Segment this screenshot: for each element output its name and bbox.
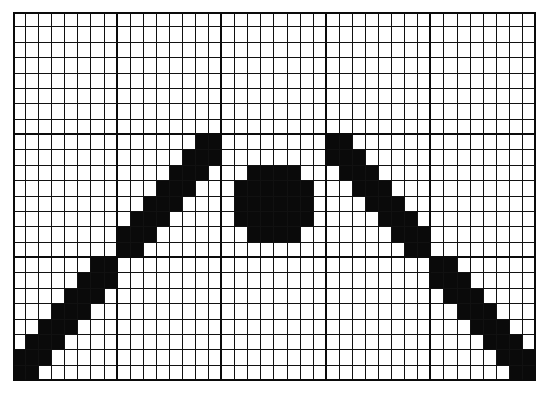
empty-pixel xyxy=(274,289,287,304)
filled-pixel xyxy=(510,335,523,350)
empty-pixel xyxy=(366,289,379,304)
empty-pixel xyxy=(39,366,52,381)
empty-pixel xyxy=(510,150,523,165)
empty-pixel xyxy=(510,166,523,181)
empty-pixel xyxy=(78,58,91,73)
empty-pixel xyxy=(431,120,444,135)
empty-pixel xyxy=(431,58,444,73)
filled-pixel xyxy=(274,212,287,227)
empty-pixel xyxy=(288,12,301,27)
empty-pixel xyxy=(196,12,209,27)
empty-pixel xyxy=(78,89,91,104)
empty-pixel xyxy=(301,320,314,335)
filled-pixel xyxy=(52,335,65,350)
filled-pixel xyxy=(78,273,91,288)
empty-pixel xyxy=(235,12,248,27)
empty-pixel xyxy=(105,366,118,381)
empty-pixel xyxy=(405,197,418,212)
empty-pixel xyxy=(52,89,65,104)
empty-pixel xyxy=(392,350,405,365)
empty-pixel xyxy=(118,366,131,381)
empty-pixel xyxy=(13,43,26,58)
empty-pixel xyxy=(248,335,261,350)
filled-pixel xyxy=(379,212,392,227)
empty-pixel xyxy=(222,227,235,242)
empty-pixel xyxy=(39,74,52,89)
filled-pixel xyxy=(13,350,26,365)
empty-pixel xyxy=(144,366,157,381)
empty-pixel xyxy=(301,366,314,381)
empty-pixel xyxy=(379,120,392,135)
empty-pixel xyxy=(183,104,196,119)
empty-pixel xyxy=(510,43,523,58)
empty-pixel xyxy=(261,58,274,73)
empty-pixel xyxy=(366,227,379,242)
empty-pixel xyxy=(78,212,91,227)
empty-pixel xyxy=(392,104,405,119)
empty-pixel xyxy=(288,89,301,104)
empty-pixel xyxy=(157,227,170,242)
empty-pixel xyxy=(458,166,471,181)
empty-pixel xyxy=(91,181,104,196)
empty-pixel xyxy=(353,212,366,227)
empty-pixel xyxy=(235,135,248,150)
filled-pixel xyxy=(340,166,353,181)
empty-pixel xyxy=(13,243,26,258)
filled-pixel xyxy=(274,197,287,212)
empty-pixel xyxy=(274,320,287,335)
empty-pixel xyxy=(13,135,26,150)
empty-pixel xyxy=(209,197,222,212)
empty-pixel xyxy=(170,12,183,27)
empty-pixel xyxy=(65,43,78,58)
empty-pixel xyxy=(366,89,379,104)
empty-pixel xyxy=(471,258,484,273)
empty-pixel xyxy=(301,258,314,273)
empty-pixel xyxy=(471,243,484,258)
filled-pixel xyxy=(327,150,340,165)
empty-pixel xyxy=(497,243,510,258)
empty-pixel xyxy=(235,27,248,42)
empty-pixel xyxy=(405,27,418,42)
empty-pixel xyxy=(379,89,392,104)
empty-pixel xyxy=(52,104,65,119)
empty-pixel xyxy=(26,258,39,273)
empty-pixel xyxy=(353,135,366,150)
empty-pixel xyxy=(235,166,248,181)
empty-pixel xyxy=(314,320,327,335)
empty-pixel xyxy=(183,258,196,273)
empty-pixel xyxy=(431,212,444,227)
empty-pixel xyxy=(418,335,431,350)
filled-pixel xyxy=(52,320,65,335)
empty-pixel xyxy=(261,366,274,381)
empty-pixel xyxy=(78,135,91,150)
empty-pixel xyxy=(471,120,484,135)
empty-pixel xyxy=(78,197,91,212)
filled-pixel xyxy=(392,212,405,227)
empty-pixel xyxy=(510,120,523,135)
empty-pixel xyxy=(157,27,170,42)
empty-pixel xyxy=(288,335,301,350)
empty-pixel xyxy=(471,58,484,73)
empty-pixel xyxy=(13,74,26,89)
empty-pixel xyxy=(274,304,287,319)
empty-pixel xyxy=(26,212,39,227)
empty-pixel xyxy=(39,197,52,212)
empty-pixel xyxy=(13,212,26,227)
empty-pixel xyxy=(144,350,157,365)
empty-pixel xyxy=(65,335,78,350)
empty-pixel xyxy=(144,43,157,58)
empty-pixel xyxy=(39,27,52,42)
empty-pixel xyxy=(484,120,497,135)
empty-pixel xyxy=(353,289,366,304)
filled-pixel xyxy=(353,166,366,181)
empty-pixel xyxy=(183,135,196,150)
empty-pixel xyxy=(118,166,131,181)
empty-pixel xyxy=(131,166,144,181)
empty-pixel xyxy=(392,43,405,58)
empty-pixel xyxy=(105,120,118,135)
filled-pixel xyxy=(157,212,170,227)
empty-pixel xyxy=(235,350,248,365)
empty-pixel xyxy=(65,104,78,119)
empty-pixel xyxy=(118,89,131,104)
empty-pixel xyxy=(131,43,144,58)
